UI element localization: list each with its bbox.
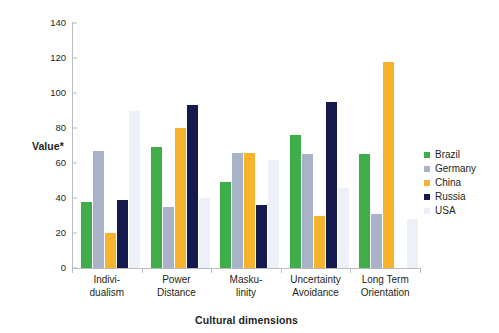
- bar-russia: [256, 205, 267, 268]
- bar-brazil: [290, 135, 301, 268]
- legend-item-russia[interactable]: Russia: [424, 190, 476, 204]
- legend-item-brazil[interactable]: Brazil: [424, 148, 476, 162]
- bar-china: [175, 128, 186, 268]
- x-axis-tick-mark: [142, 268, 143, 273]
- bar-usa: [407, 219, 418, 268]
- y-axis-ticks: 020406080100120140: [40, 16, 72, 276]
- bar-brazil: [151, 147, 162, 268]
- legend-item-germany[interactable]: Germany: [424, 162, 476, 176]
- legend-label: China: [435, 178, 461, 188]
- y-tick-label-0: 0: [61, 263, 66, 273]
- bar-group: [290, 23, 350, 268]
- bar-usa: [338, 188, 349, 269]
- x-axis-tick-mark: [72, 268, 73, 273]
- bar-china: [244, 153, 255, 269]
- x-axis-tick-mark: [420, 268, 421, 273]
- bar-usa: [129, 111, 140, 269]
- bar-china: [314, 216, 325, 269]
- bar-group: [359, 23, 419, 268]
- legend-label: Germany: [435, 164, 476, 174]
- bar-russia: [187, 105, 198, 268]
- bar-group: [220, 23, 280, 268]
- bar-germany: [232, 153, 243, 269]
- chart-legend: BrazilGermanyChinaRussiaUSA: [424, 148, 476, 218]
- legend-item-usa[interactable]: USA: [424, 204, 476, 218]
- plot-area: [73, 23, 421, 268]
- bar-brazil: [220, 182, 231, 268]
- legend-swatch-icon: [424, 166, 430, 172]
- bar-brazil: [359, 154, 370, 268]
- bar-germany: [163, 207, 174, 268]
- y-tick-label-120: 120: [50, 53, 66, 63]
- bar-russia: [117, 200, 128, 268]
- x-axis-line: [72, 268, 421, 269]
- x-axis-title: Cultural dimensions: [72, 314, 421, 326]
- legend-item-china[interactable]: China: [424, 176, 476, 190]
- bar-germany: [302, 154, 313, 268]
- x-label-line: Long Term: [340, 274, 430, 287]
- x-axis-tick-mark: [350, 268, 351, 273]
- bar-chart: Value* 020406080100120140 Indivi-dualism…: [0, 0, 499, 333]
- bar-germany: [371, 214, 382, 268]
- bar-group: [81, 23, 141, 268]
- bar-russia: [326, 102, 337, 268]
- y-tick-label-20: 20: [55, 228, 66, 238]
- x-label-group-5: Long TermOrientation: [340, 274, 430, 299]
- bar-usa: [199, 198, 210, 268]
- y-tick-label-60: 60: [55, 158, 66, 168]
- legend-swatch-icon: [424, 194, 430, 200]
- legend-swatch-icon: [424, 208, 430, 214]
- legend-label: Brazil: [435, 150, 460, 160]
- y-tick-label-40: 40: [55, 193, 66, 203]
- legend-label: USA: [435, 206, 456, 216]
- bar-china: [383, 62, 394, 269]
- legend-label: Russia: [435, 192, 466, 202]
- x-label-line: Orientation: [340, 287, 430, 300]
- bar-germany: [93, 151, 104, 268]
- bar-china: [105, 233, 116, 268]
- y-tick-label-140: 140: [50, 18, 66, 28]
- y-tick-label-100: 100: [50, 88, 66, 98]
- y-tick-label-80: 80: [55, 123, 66, 133]
- bar-usa: [268, 160, 279, 269]
- legend-swatch-icon: [424, 180, 430, 186]
- legend-swatch-icon: [424, 152, 430, 158]
- x-axis-tick-mark: [211, 268, 212, 273]
- bar-brazil: [81, 202, 92, 269]
- bar-group: [151, 23, 211, 268]
- x-axis-tick-mark: [281, 268, 282, 273]
- x-axis-tick-labels: Indivi-dualismPowerDistanceMasku-linityU…: [72, 274, 421, 314]
